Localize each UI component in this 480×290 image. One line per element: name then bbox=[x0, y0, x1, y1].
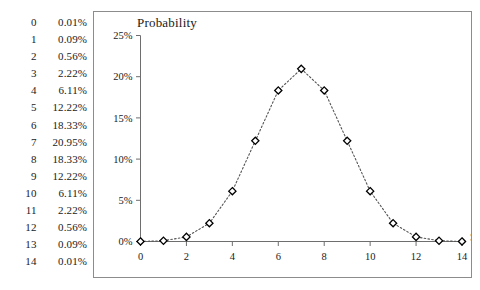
x-axis-ticks: 02468101214 bbox=[138, 242, 468, 262]
data-point-marker bbox=[435, 237, 442, 244]
table-cell-outcome: 10 bbox=[0, 185, 37, 202]
data-point-marker bbox=[390, 220, 397, 227]
table-cell-outcome: 14 bbox=[0, 253, 37, 270]
table-row: 32.22% bbox=[0, 65, 92, 82]
table-cell-outcome: 1 bbox=[0, 31, 37, 48]
chart-frame: Probability 0%5%10%15%20%25% 02468101214… bbox=[93, 11, 472, 278]
table-cell-probability: 0.01% bbox=[37, 14, 92, 31]
x-axis-tick-label: 10 bbox=[365, 251, 376, 262]
table-cell-outcome: 0 bbox=[0, 14, 37, 31]
y-axis-tick-label: 5% bbox=[119, 195, 133, 206]
table-row: 46.11% bbox=[0, 82, 92, 99]
data-point-marker bbox=[137, 238, 144, 245]
table-cell-outcome: 11 bbox=[0, 202, 37, 219]
table-row: 120.56% bbox=[0, 219, 92, 236]
table-cell-probability: 2.22% bbox=[37, 65, 92, 82]
table-cell-outcome: 13 bbox=[0, 236, 37, 253]
table-cell-probability: 6.11% bbox=[37, 82, 92, 99]
table-cell-probability: 20.95% bbox=[37, 134, 92, 151]
table-cell-outcome: 7 bbox=[0, 134, 37, 151]
probability-series-line bbox=[141, 69, 463, 242]
table-row: 512.22% bbox=[0, 99, 92, 116]
y-axis-ticks: 0%5%10%15%20%25% bbox=[113, 30, 140, 247]
table-cell-outcome: 5 bbox=[0, 99, 37, 116]
y-axis-tick-label: 25% bbox=[113, 30, 133, 41]
table-cell-probability: 18.33% bbox=[37, 117, 92, 134]
data-point-marker bbox=[206, 220, 213, 227]
x-axis-label: S bbox=[470, 230, 471, 244]
table-cell-outcome: 2 bbox=[0, 48, 37, 65]
y-axis-tick-label: 10% bbox=[113, 154, 133, 165]
x-axis-tick-label: 0 bbox=[138, 251, 143, 262]
table-cell-outcome: 4 bbox=[0, 82, 37, 99]
table-row: 130.09% bbox=[0, 236, 92, 253]
table-cell-outcome: 3 bbox=[0, 65, 37, 82]
data-point-marker bbox=[367, 188, 374, 195]
data-point-marker bbox=[412, 233, 419, 240]
table-cell-probability: 0.56% bbox=[37, 219, 92, 236]
table-row: 618.33% bbox=[0, 117, 92, 134]
data-point-marker bbox=[160, 237, 167, 244]
x-axis-tick-label: 6 bbox=[276, 251, 281, 262]
table-cell-probability: 0.56% bbox=[37, 48, 92, 65]
data-point-marker bbox=[458, 238, 465, 245]
x-axis-tick-label: 2 bbox=[184, 251, 189, 262]
x-axis-tick-label: 8 bbox=[322, 251, 327, 262]
table-row: 112.22% bbox=[0, 202, 92, 219]
probability-table: 00.01%10.09%20.56%32.22%46.11%512.22%618… bbox=[0, 14, 92, 270]
table-cell-outcome: 9 bbox=[0, 168, 37, 185]
table-cell-probability: 18.33% bbox=[37, 151, 92, 168]
x-axis-tick-label: 12 bbox=[411, 251, 422, 262]
y-axis-tick-label: 20% bbox=[113, 71, 133, 82]
data-point-marker bbox=[183, 233, 190, 240]
table-cell-probability: 0.01% bbox=[37, 253, 92, 270]
data-point-marker bbox=[252, 137, 259, 144]
table-cell-outcome: 6 bbox=[0, 117, 37, 134]
data-point-marker bbox=[229, 188, 236, 195]
table-cell-outcome: 12 bbox=[0, 219, 37, 236]
table-row: 20.56% bbox=[0, 48, 92, 65]
y-axis-tick-label: 0% bbox=[119, 236, 133, 247]
x-axis-tick-label: 14 bbox=[457, 251, 468, 262]
table-row: 818.33% bbox=[0, 151, 92, 168]
probability-series-markers bbox=[137, 65, 466, 245]
table-cell-probability: 2.22% bbox=[37, 202, 92, 219]
table-cell-probability: 6.11% bbox=[37, 185, 92, 202]
y-axis-tick-label: 15% bbox=[113, 113, 133, 124]
x-axis-tick-label: 4 bbox=[230, 251, 236, 262]
data-point-marker bbox=[344, 137, 351, 144]
table-row: 720.95% bbox=[0, 134, 92, 151]
table-cell-probability: 0.09% bbox=[37, 236, 92, 253]
table-row: 140.01% bbox=[0, 253, 92, 270]
table-row: 00.01% bbox=[0, 14, 92, 31]
table-cell-outcome: 8 bbox=[0, 151, 37, 168]
table-cell-probability: 0.09% bbox=[37, 31, 92, 48]
table-row: 912.22% bbox=[0, 168, 92, 185]
data-point-marker bbox=[275, 87, 282, 94]
probability-line-chart: 0%5%10%15%20%25% 02468101214 S bbox=[94, 12, 471, 277]
table-row: 10.09% bbox=[0, 31, 92, 48]
table-row: 106.11% bbox=[0, 185, 92, 202]
table-cell-probability: 12.22% bbox=[37, 168, 92, 185]
table-cell-probability: 12.22% bbox=[37, 99, 92, 116]
